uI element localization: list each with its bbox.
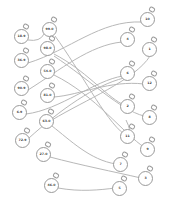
bomb-label: 6.9 xyxy=(12,105,27,120)
bomb-label: 9 xyxy=(140,142,155,157)
right-bomb[interactable]: 9 xyxy=(140,142,156,158)
right-bomb[interactable]: 12 xyxy=(142,76,158,92)
bomb-label: 90.9 xyxy=(14,81,29,96)
bomb-label: 7 xyxy=(113,157,128,172)
bomb-label: 27.0 xyxy=(36,147,51,162)
bomb-label: 5 xyxy=(112,181,127,196)
bomb-label: 98.0 xyxy=(40,41,55,56)
left-bomb[interactable]: 36.9 xyxy=(14,53,30,69)
bomb-label: 11 xyxy=(120,129,135,144)
left-bomb[interactable]: 6.9 xyxy=(12,105,28,121)
right-bomb[interactable]: 2 xyxy=(120,99,136,115)
bomb-label: 81.0 xyxy=(40,88,55,103)
right-bomb[interactable]: 1 xyxy=(142,42,158,58)
left-bomb[interactable]: 90.9 xyxy=(14,81,30,97)
bomb-label: 36.9 xyxy=(14,53,29,68)
right-bomb[interactable]: 7 xyxy=(113,157,129,173)
right-bomb[interactable]: 6 xyxy=(120,66,136,82)
connection-line xyxy=(52,126,116,164)
bomb-label: 10 xyxy=(140,12,155,27)
left-bomb[interactable]: 98.0 xyxy=(40,41,56,57)
bomb-label: 4 xyxy=(120,32,135,47)
left-bomb[interactable]: 54.0 xyxy=(40,64,56,80)
bomb-label: 54.0 xyxy=(40,64,55,79)
left-bomb[interactable]: 81.0 xyxy=(40,88,56,104)
right-bomb[interactable]: 8 xyxy=(142,110,158,126)
bomb-label: 46.0 xyxy=(44,178,59,193)
bomb-label: 18.9 xyxy=(14,29,29,44)
connection-line xyxy=(58,188,115,190)
bomb-label: 2 xyxy=(120,99,135,114)
bomb-label: 72.9 xyxy=(15,133,30,148)
right-bomb[interactable]: 4 xyxy=(120,32,136,48)
left-bomb[interactable]: 72.9 xyxy=(15,133,31,149)
left-bomb[interactable]: 46.0 xyxy=(44,178,60,194)
right-bomb[interactable]: 5 xyxy=(112,181,128,197)
bomb-label: 3 xyxy=(138,171,153,186)
bomb-label: 63.0 xyxy=(39,114,54,129)
bomb-label: 12 xyxy=(142,76,157,91)
bomb-label: 8 xyxy=(142,110,157,125)
left-bomb[interactable]: 63.0 xyxy=(39,114,55,130)
left-bomb[interactable]: 18.9 xyxy=(14,29,30,45)
bomb-label: 1 xyxy=(142,42,157,57)
right-bomb[interactable]: 3 xyxy=(138,171,154,187)
right-bomb[interactable]: 11 xyxy=(120,129,136,145)
left-bomb[interactable]: 27.0 xyxy=(36,147,52,163)
bomb-label: 6 xyxy=(120,66,135,81)
right-bomb[interactable]: 10 xyxy=(140,12,156,28)
